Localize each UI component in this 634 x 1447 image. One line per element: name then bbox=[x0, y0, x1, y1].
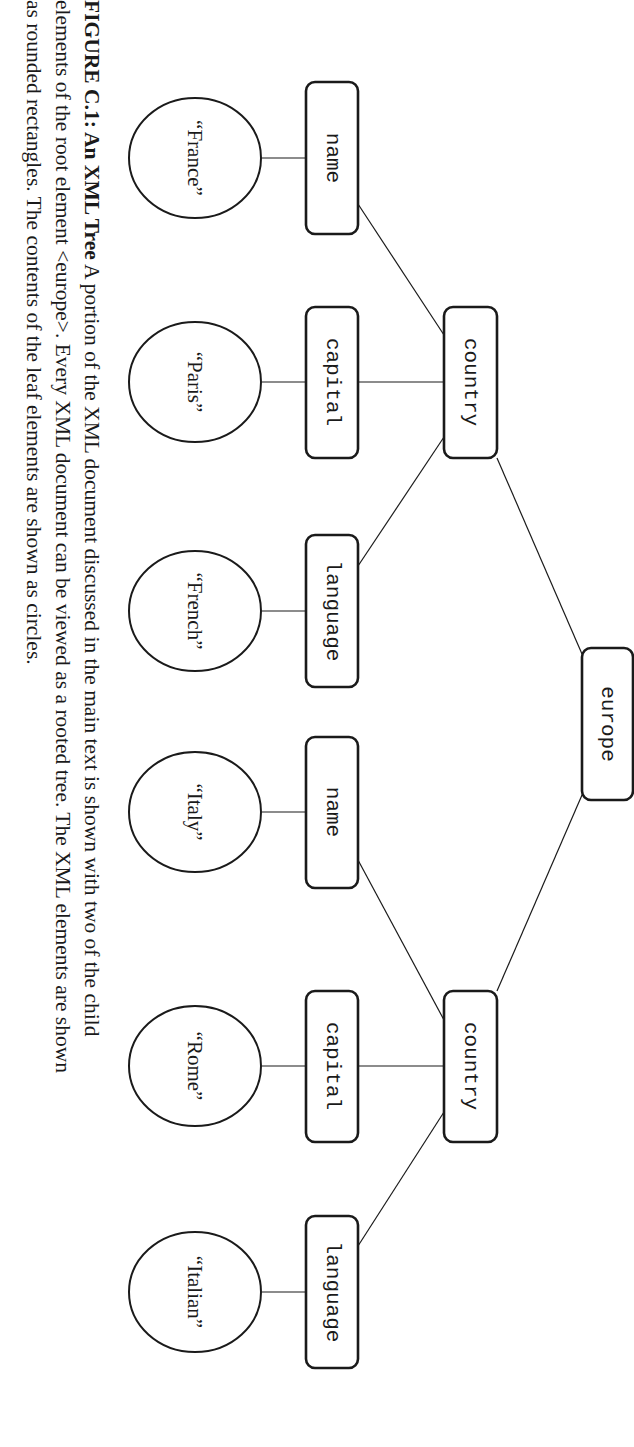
node-name-2: name bbox=[306, 737, 358, 888]
leaf-italy: “Italy” bbox=[129, 752, 261, 872]
caption-line-3: as rounded rectangles. The contents of t… bbox=[19, 0, 48, 1447]
caption-line-1-text: A portion of the XML document discussed … bbox=[80, 260, 104, 1037]
node-capital-1-label: capital bbox=[321, 338, 344, 426]
edge-country-1-name bbox=[358, 204, 444, 335]
leaf-italian-label: “Italian” bbox=[183, 1256, 207, 1328]
edge-europe-country-1 bbox=[497, 458, 582, 654]
leaf-italy-label: “Italy” bbox=[183, 783, 207, 840]
node-capital-2-label: capital bbox=[321, 1022, 344, 1110]
leaf-france-label: “France” bbox=[183, 120, 207, 196]
node-europe: europe bbox=[582, 648, 633, 800]
leaf-italian: “Italian” bbox=[129, 1232, 261, 1352]
leaf-rome-label: “Rome” bbox=[183, 1032, 207, 1101]
edge-country-1-language bbox=[358, 437, 444, 566]
node-language-2: language bbox=[306, 1216, 358, 1368]
node-country-1-label: country bbox=[459, 338, 482, 426]
leaf-french-label: “French” bbox=[183, 573, 207, 650]
edge-europe-country-2 bbox=[497, 795, 582, 991]
caption-line-2: elements of the root element <europe>. E… bbox=[48, 0, 77, 1447]
caption-title: FIGURE C.1: An XML Tree bbox=[80, 0, 104, 260]
node-europe-label: europe bbox=[596, 686, 619, 762]
edge-country-2-name bbox=[358, 860, 444, 1020]
figure-caption: FIGURE C.1: An XML Tree A portion of the… bbox=[0, 0, 110, 1447]
node-capital-1: capital bbox=[306, 307, 358, 458]
node-name-2-label: name bbox=[321, 787, 344, 837]
leaf-rome: “Rome” bbox=[129, 1006, 261, 1126]
node-language-2-label: language bbox=[321, 1242, 344, 1343]
leaf-france: “France” bbox=[129, 98, 261, 218]
node-capital-2: capital bbox=[306, 991, 358, 1142]
leaf-paris-label: “Paris” bbox=[183, 352, 207, 413]
caption-line-1: FIGURE C.1: An XML Tree A portion of the… bbox=[77, 0, 106, 1447]
leaf-french: “French” bbox=[129, 551, 261, 671]
node-country-1: country bbox=[444, 307, 497, 458]
node-country-2: country bbox=[444, 991, 497, 1142]
edge-country-2-language bbox=[358, 1112, 444, 1246]
node-country-2-label: country bbox=[459, 1022, 482, 1110]
node-name-1-label: name bbox=[321, 133, 344, 183]
node-language-1-label: language bbox=[321, 561, 344, 662]
node-name-1: name bbox=[306, 82, 358, 234]
node-language-1: language bbox=[306, 535, 358, 687]
leaf-paris: “Paris” bbox=[129, 322, 261, 442]
